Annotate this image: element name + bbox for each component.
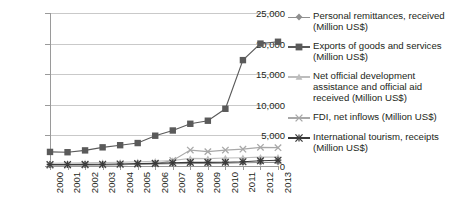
square-marker <box>99 144 105 150</box>
legend-marker-triangle <box>288 71 310 83</box>
square-marker <box>134 140 140 146</box>
asterisk-marker <box>222 159 229 166</box>
asterisk-marker <box>204 159 211 166</box>
legend-label: FDI, net inflows (Million US$) <box>310 111 437 122</box>
plot-region: 05,00010,00015,00020,00025,000 200020012… <box>0 0 285 215</box>
square-marker <box>275 39 281 45</box>
legend-label: Personal remittances, received (Million … <box>310 10 451 33</box>
cross-icon <box>292 111 306 125</box>
asterisk-marker <box>152 160 159 167</box>
diamond-marker <box>296 14 303 21</box>
legend-label: International tourism, receipts (Million… <box>310 131 451 154</box>
asterisk-marker <box>134 160 141 167</box>
asterisk-marker <box>169 159 176 166</box>
asterisk-marker <box>257 157 264 164</box>
square-marker <box>222 106 228 112</box>
asterisk-marker <box>275 157 282 164</box>
square-marker <box>82 147 88 153</box>
square-marker <box>64 149 70 155</box>
asterisk-marker <box>99 161 106 168</box>
square-marker <box>257 40 263 46</box>
legend-label: Exports of goods and services (Million U… <box>310 40 451 63</box>
triangle-icon <box>292 70 306 84</box>
legend-item-4[interactable]: FDI, net inflows (Million US$) <box>288 111 451 124</box>
legend-label: Net official development assistance and … <box>310 70 451 104</box>
asterisk-marker <box>187 159 194 166</box>
legend-item-2[interactable]: Exports of goods and services (Million U… <box>288 40 451 63</box>
square-marker <box>170 127 176 133</box>
square-marker <box>205 118 211 124</box>
square-marker <box>117 142 123 148</box>
asterisk-marker <box>240 158 247 165</box>
legend-item-5[interactable]: International tourism, receipts (Million… <box>288 131 451 154</box>
legend-item-1[interactable]: Personal remittances, received (Million … <box>288 10 451 33</box>
legend-marker-diamond <box>288 11 310 23</box>
square-icon <box>292 40 306 54</box>
line-chart: 05,00010,00015,00020,00025,000 200020012… <box>0 0 451 215</box>
square-marker <box>240 57 246 63</box>
asterisk-marker <box>82 161 89 168</box>
series-lines <box>0 0 285 215</box>
asterisk-icon <box>292 131 306 145</box>
square-marker <box>47 149 53 155</box>
asterisk-marker <box>295 134 302 141</box>
legend-marker-square <box>288 41 310 53</box>
series-2 <box>47 39 281 156</box>
square-marker <box>152 133 158 139</box>
cross-marker <box>296 114 303 121</box>
diamond-icon <box>292 10 306 24</box>
square-marker <box>296 43 303 50</box>
asterisk-marker <box>47 161 54 168</box>
legend-item-3[interactable]: Net official development assistance and … <box>288 70 451 104</box>
asterisk-marker <box>117 161 124 168</box>
chart-legend: Personal remittances, received (Million … <box>288 10 451 161</box>
asterisk-marker <box>64 161 71 168</box>
legend-marker-cross <box>288 112 310 124</box>
legend-marker-asterisk <box>288 132 310 144</box>
triangle-marker <box>296 73 303 79</box>
square-marker <box>187 121 193 127</box>
